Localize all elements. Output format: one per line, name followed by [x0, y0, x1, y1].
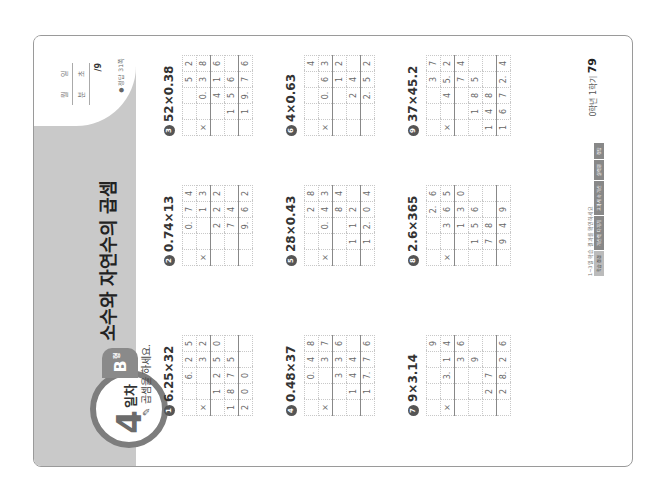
grid-cell: 8	[305, 336, 319, 352]
grid-cell	[483, 72, 497, 88]
problem-number-icon: 6	[286, 125, 297, 136]
calculation-grid: 4×0.6312242.52	[304, 55, 375, 136]
grid-cell	[427, 104, 441, 120]
answer-reference: ● 정답 31쪽	[116, 58, 125, 93]
page-number-value: 79	[586, 58, 599, 73]
grid-cell: 3	[455, 202, 469, 218]
grid-cell: 1	[211, 384, 225, 400]
grid-cell: 2	[211, 218, 225, 234]
grid-cell	[211, 120, 225, 136]
grid-cell: 7.	[361, 368, 375, 384]
grid-cell	[305, 218, 319, 234]
grid-cell: 8	[483, 88, 497, 104]
grid-cell: 7	[483, 234, 497, 250]
problem-number-icon: 3	[164, 125, 175, 136]
grid-cell	[319, 234, 333, 250]
problem-title: 20.74×13	[162, 174, 176, 266]
problem-expression: 9×3.14	[406, 354, 420, 402]
grid-cell	[225, 120, 239, 136]
score-row: /9	[90, 63, 106, 105]
grid-cell	[455, 104, 469, 120]
problem-number-icon: 2	[164, 255, 175, 266]
grid-cell: 4	[483, 104, 497, 120]
problem-title: 82.6×365	[406, 174, 420, 266]
grid-cell	[333, 104, 347, 120]
grid-cell: 1	[225, 400, 239, 416]
grid-cell: 0	[211, 336, 225, 352]
grid-cell: 2.	[427, 202, 441, 218]
grid-cell: 6	[441, 202, 455, 218]
grid-cell: 3	[319, 352, 333, 368]
grid-cell	[183, 250, 197, 266]
grid-cell: 0	[239, 368, 253, 384]
grid-cell: 2.	[497, 72, 511, 88]
grid-cell	[427, 368, 441, 384]
grid-cell	[239, 352, 253, 368]
problem-title: 16.25×32	[162, 324, 176, 416]
grid-cell: 3	[197, 186, 211, 202]
grid-cell	[305, 250, 319, 266]
grid-cell: 3	[197, 72, 211, 88]
grid-cell	[347, 336, 361, 352]
problem-title: 352×0.38	[162, 44, 176, 136]
grid-cell: 0	[239, 384, 253, 400]
grid-cell: 1	[225, 104, 239, 120]
grid-cell: 2	[305, 202, 319, 218]
grid-cell: 1	[347, 384, 361, 400]
day-field-label: 일	[59, 71, 69, 77]
grid-cell: 9	[497, 202, 511, 218]
grid-cell: 6	[497, 336, 511, 352]
grid-cell: 6	[427, 186, 441, 202]
level-tag: B형	[102, 348, 138, 378]
page-label: 0학년 1학기	[589, 76, 598, 117]
minute-label: 분	[76, 92, 86, 98]
grid-cell: 5	[225, 352, 239, 368]
grid-cell	[455, 384, 469, 400]
grid-cell: ×	[319, 250, 333, 266]
grid-cell	[305, 104, 319, 120]
problem-number-icon: 4	[286, 405, 297, 416]
grid-cell: 2	[239, 400, 253, 416]
grid-cell: 1	[497, 120, 511, 136]
grid-cell: 8	[225, 384, 239, 400]
footer-nav-item: 교과서 속 계산	[594, 181, 604, 216]
worksheet-frame: 4 일차 B형 소수와 자연수의 곱셈 월 일 분 초 /9 ● 정답 31쪽 …	[33, 35, 633, 467]
grid-cell: 2	[183, 56, 197, 72]
grid-cell: 1	[441, 352, 455, 368]
grid-cell: 2	[347, 88, 361, 104]
grid-cell	[333, 384, 347, 400]
grid-cell	[239, 250, 253, 266]
grid-cell: 9	[427, 336, 441, 352]
grid-cell	[361, 250, 375, 266]
grid-cell: 7	[427, 56, 441, 72]
grid-cell	[347, 104, 361, 120]
grid-cell: 2.	[361, 218, 375, 234]
grid-cell: 4	[441, 88, 455, 104]
time-row: 분 초	[73, 63, 90, 105]
grid-cell	[333, 120, 347, 136]
footer-nav-item: 실력편	[594, 160, 604, 180]
problem-5: 528×0.4328×0.438411212.04	[284, 174, 375, 266]
problem-4: 40.48×370.48×3733614417.76	[284, 324, 375, 416]
problem-9: 937×45.237×45.2741851481672.4	[406, 44, 511, 136]
grid-cell: ×	[197, 250, 211, 266]
grid-cell	[211, 104, 225, 120]
grid-cell	[183, 88, 197, 104]
grid-cell: ×	[441, 250, 455, 266]
page-number: 0학년 1학기 79	[586, 58, 599, 117]
grid-cell	[347, 120, 361, 136]
grid-cell: 1	[483, 120, 497, 136]
grid-cell: 1	[455, 218, 469, 234]
instruction: ✎ 곱셈을 하세요.	[138, 344, 153, 416]
grid-cell: 3	[197, 352, 211, 368]
grid-cell	[239, 336, 253, 352]
grid-cell	[183, 120, 197, 136]
grid-cell: 7	[361, 352, 375, 368]
grid-cell: 1	[239, 104, 253, 120]
problem-title: 937×45.2	[406, 44, 420, 136]
grid-cell: 3	[455, 352, 469, 368]
grid-cell: 3	[319, 186, 333, 202]
problem-8: 82.6×3652.6×36513015678949	[406, 174, 511, 266]
grid-cell	[483, 250, 497, 266]
grid-cell: 1	[197, 202, 211, 218]
